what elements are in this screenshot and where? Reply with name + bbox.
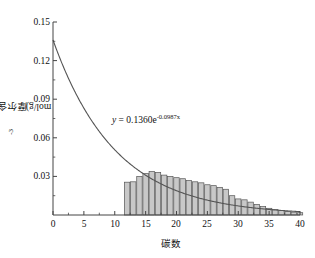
plot-area bbox=[0, 0, 315, 258]
bar bbox=[131, 182, 136, 215]
bar bbox=[285, 211, 290, 215]
bar bbox=[254, 204, 259, 215]
bar bbox=[180, 179, 185, 215]
bar bbox=[248, 202, 253, 215]
bar bbox=[124, 182, 129, 215]
bar bbox=[161, 175, 166, 215]
chart-container: 摩尔含量/(10-3mol/g) 0.15 0.12 0.09 0.06 0.0… bbox=[0, 0, 315, 258]
bar bbox=[186, 181, 191, 215]
bar bbox=[192, 182, 197, 215]
bar bbox=[211, 186, 216, 215]
bar bbox=[260, 207, 265, 215]
bar bbox=[223, 189, 228, 215]
bar bbox=[168, 176, 173, 215]
bar bbox=[137, 176, 142, 215]
bar bbox=[155, 173, 160, 215]
bar bbox=[143, 174, 148, 215]
bar bbox=[174, 178, 179, 215]
bar bbox=[279, 211, 284, 216]
bar bbox=[217, 187, 222, 215]
